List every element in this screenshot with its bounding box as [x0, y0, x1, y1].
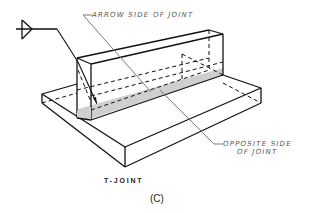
arrow-side-label: ARROW SIDE OF JOINT: [92, 11, 193, 19]
opposite-side-label-line2: OF JOINT: [237, 148, 278, 156]
opposite-side-label-line1: OPPOSITE SIDE: [223, 140, 292, 148]
figure-label: (C): [150, 193, 164, 204]
joint-title: T-JOINT: [104, 177, 143, 184]
t-joint-diagram: [0, 0, 324, 213]
